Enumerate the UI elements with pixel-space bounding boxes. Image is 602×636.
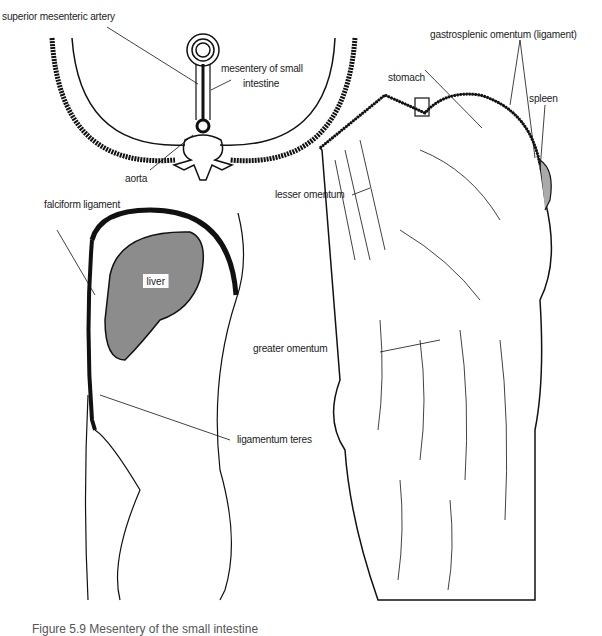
label-mesentery-line1: mesentery of small	[221, 62, 303, 74]
figure-caption: Figure 5.9 Mesentery of the small intest…	[32, 622, 258, 636]
label-greater-omentum: greater omentum	[253, 342, 327, 354]
label-spleen: spleen	[529, 92, 558, 104]
label-lesser-omentum: lesser omentum	[275, 188, 345, 200]
label-mesentery-line2: intestine	[243, 77, 279, 89]
omentum-diagram	[320, 40, 551, 600]
sagittal-section-diagram	[57, 210, 244, 600]
label-liver: liver	[143, 274, 169, 288]
label-aorta: aorta	[125, 172, 147, 184]
label-falciform-ligament: falciform ligament	[44, 198, 120, 210]
label-superior-mesenteric-artery: superior mesenteric artery	[2, 10, 115, 22]
label-stomach: stomach	[388, 71, 425, 83]
cross-section-diagram	[52, 27, 355, 180]
label-gastrosplenic-omentum: gastrosplenic omentum (ligament)	[430, 28, 577, 40]
label-ligamentum-teres: ligamentum teres	[237, 433, 312, 445]
